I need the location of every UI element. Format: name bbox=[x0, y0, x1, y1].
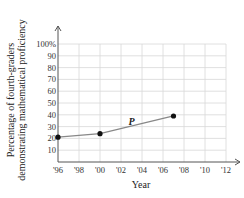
y-tick-label: 100% bbox=[36, 39, 56, 49]
y-tick-label: 10 bbox=[48, 145, 57, 155]
y-tick-label: 90 bbox=[48, 51, 57, 61]
x-tick-label: '04 bbox=[137, 165, 148, 175]
series-label: P bbox=[128, 116, 135, 127]
x-tick-label: '12 bbox=[221, 165, 231, 175]
x-tick-label: '98 bbox=[74, 165, 84, 175]
y-tick-label: 40 bbox=[48, 110, 57, 120]
y-tick-labels: 102030405060708090100% bbox=[36, 39, 56, 155]
x-tick-label: '08 bbox=[179, 165, 189, 175]
data-point bbox=[171, 113, 176, 118]
x-tick-label: '10 bbox=[200, 165, 210, 175]
y-tick-label: 80 bbox=[48, 63, 57, 73]
x-tick-label: '02 bbox=[116, 165, 126, 175]
y-tick-label: 20 bbox=[48, 133, 57, 143]
data-point bbox=[55, 135, 60, 140]
line-chart: 102030405060708090100% '96'98'00'02'04'0… bbox=[0, 0, 244, 198]
x-tick-label: '06 bbox=[158, 165, 168, 175]
y-axis-label-line: Percentage of fourth-graders bbox=[5, 43, 16, 157]
y-axis-label: Percentage of fourth-gradersdemonstratin… bbox=[5, 19, 27, 181]
axes bbox=[55, 26, 240, 165]
x-tick-labels: '96'98'00'02'04'06'08'10'12 bbox=[53, 165, 231, 175]
y-axis-label-line: demonstrating mathematical proficiency bbox=[16, 19, 27, 181]
grid-lines bbox=[58, 44, 226, 162]
x-axis-label: Year bbox=[132, 179, 151, 190]
x-tick-label: '96 bbox=[53, 165, 63, 175]
y-tick-label: 50 bbox=[48, 98, 57, 108]
y-tick-label: 70 bbox=[48, 74, 57, 84]
y-tick-label: 30 bbox=[48, 122, 57, 132]
y-tick-label: 60 bbox=[48, 86, 57, 96]
data-point bbox=[97, 131, 102, 136]
x-tick-label: '00 bbox=[95, 165, 105, 175]
